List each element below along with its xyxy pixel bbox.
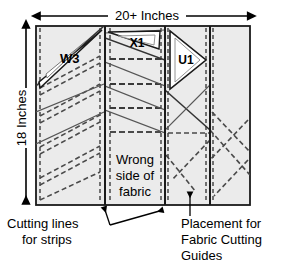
wrong-side-line3: fabric	[119, 184, 151, 199]
placement-line2: Fabric Cutting	[181, 232, 262, 247]
cutting-lines-leader-2	[110, 210, 163, 225]
cutting-lines-leader-1	[104, 207, 110, 225]
height-dimension-label: 18 Inches	[14, 89, 29, 146]
cutting-guide-w3-label: W3	[60, 51, 80, 66]
cutting-lines-line2: for strips	[22, 232, 72, 247]
cutting-guide-u1-label: U1	[178, 53, 194, 67]
cutting-guide-x1-label: X1	[130, 36, 145, 50]
height-dimension: 18 Inches	[14, 28, 29, 204]
wrong-side-line2: side of	[116, 168, 155, 183]
placement-line3: Guides	[181, 248, 223, 263]
width-dimension-label: 20+ Inches	[115, 8, 179, 23]
cutting-lines-line1: Cutting lines	[7, 216, 79, 231]
width-dimension: 20+ Inches	[40, 8, 248, 23]
placement-line1: Placement for	[181, 216, 262, 231]
fabric-cutting-diagram: 20+ Inches 18 Inches	[0, 0, 289, 269]
wrong-side-label: Wrong side of fabric	[116, 152, 155, 199]
callout-cutting-lines: Cutting lines for strips	[7, 207, 163, 247]
diagram-canvas: 20+ Inches 18 Inches	[0, 0, 289, 269]
wrong-side-line1: Wrong	[116, 152, 154, 167]
